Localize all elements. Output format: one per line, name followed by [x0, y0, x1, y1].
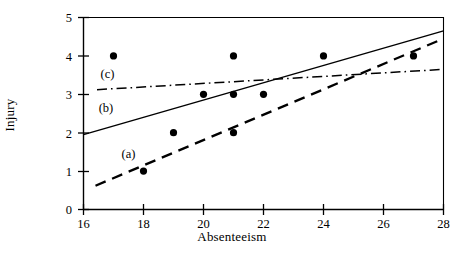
x-axis-title: Absenteeism — [0, 229, 464, 245]
y-tick-label-3: 3 — [66, 88, 72, 102]
data-point — [410, 52, 417, 59]
y-tick-label-0: 0 — [66, 203, 72, 217]
data-point — [260, 91, 267, 98]
curve-label-c: (c) — [101, 67, 115, 81]
data-point — [230, 91, 237, 98]
curve-label-b: (b) — [99, 101, 114, 115]
data-point — [230, 129, 237, 136]
regression-line-b — [84, 31, 444, 135]
chart-figure: 5 4 3 2 1 0 16 18 20 22 24 26 28 — [0, 0, 464, 254]
data-point — [320, 52, 327, 59]
fitted-lines — [84, 31, 444, 186]
data-point — [230, 52, 237, 59]
curve-label-a: (a) — [122, 147, 136, 161]
regression-line-a — [96, 39, 444, 186]
data-point — [200, 91, 207, 98]
y-tick-label-1: 1 — [66, 165, 72, 179]
y-tick-label-5: 5 — [66, 11, 72, 25]
y-axis-tick-labels: 5 4 3 2 1 0 — [66, 11, 73, 217]
data-point — [170, 129, 177, 136]
y-tick-label-2: 2 — [66, 127, 72, 141]
data-point — [140, 168, 147, 175]
y-axis-title: Injury — [2, 50, 18, 180]
regression-line-c — [97, 69, 444, 89]
data-point — [110, 52, 117, 59]
y-tick-label-4: 4 — [66, 50, 73, 64]
scatter-plot: 5 4 3 2 1 0 16 18 20 22 24 26 28 — [0, 0, 464, 254]
curve-label-group: (a)(b)(c) — [99, 67, 136, 160]
